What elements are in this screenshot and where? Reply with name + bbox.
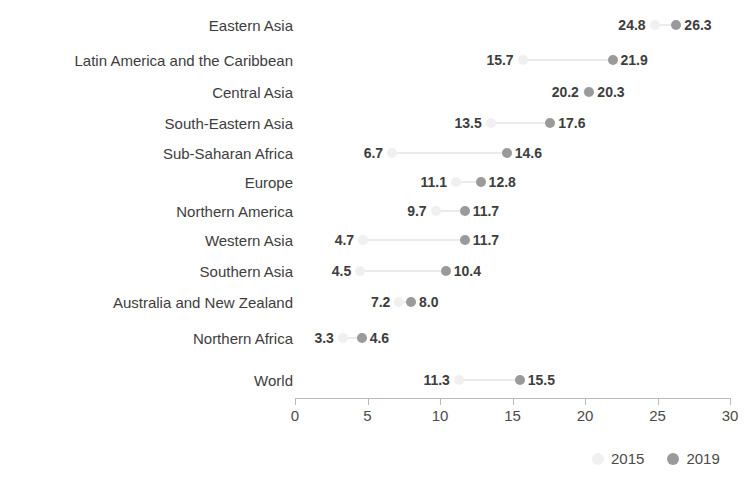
value-label-2019: 17.6 <box>558 116 585 130</box>
value-label-2019: 20.3 <box>597 85 624 99</box>
x-axis-tick-label: 15 <box>504 408 521 423</box>
value-label-2019: 15.5 <box>528 373 555 387</box>
data-point-2019 <box>460 206 470 216</box>
connector-line <box>459 380 520 381</box>
data-point-2019 <box>441 266 451 276</box>
category-label: Europe <box>245 175 293 190</box>
x-axis-tick-label: 5 <box>363 408 371 423</box>
data-point-2015 <box>358 235 368 245</box>
value-label-2015: 4.7 <box>335 233 354 247</box>
value-label-2019: 8.0 <box>419 295 438 309</box>
connector-line <box>363 240 465 241</box>
value-label-2015: 15.7 <box>486 53 513 67</box>
x-axis-tick-label: 30 <box>722 408 739 423</box>
data-point-2015 <box>486 118 496 128</box>
data-point-2019 <box>515 375 525 385</box>
value-label-2015: 7.2 <box>371 295 390 309</box>
value-label-2019: 21.9 <box>621 53 648 67</box>
category-label: Western Asia <box>205 233 293 248</box>
data-point-2019 <box>671 20 681 30</box>
value-label-2019: 12.8 <box>489 175 516 189</box>
x-axis-tick <box>585 398 586 405</box>
data-point-2015 <box>518 55 528 65</box>
category-label: Latin America and the Caribbean <box>75 53 293 68</box>
category-label: Southern Asia <box>200 264 293 279</box>
data-point-2019 <box>608 55 618 65</box>
data-point-2015 <box>451 177 461 187</box>
x-axis-tick <box>730 398 731 405</box>
category-label: Northern America <box>176 204 293 219</box>
data-point-2019 <box>406 297 416 307</box>
value-label-2015: 11.3 <box>423 373 449 387</box>
legend-label-2019: 2019 <box>686 450 719 467</box>
category-label: Australia and New Zealand <box>113 295 293 310</box>
value-label-2019: 11.7 <box>473 204 499 218</box>
category-label: World <box>254 373 293 388</box>
x-axis-tick <box>368 398 369 405</box>
data-point-2015 <box>650 20 660 30</box>
connector-line <box>360 271 446 272</box>
category-label: Northern Africa <box>193 331 293 346</box>
value-label-2019: 26.3 <box>684 18 711 32</box>
value-label-2015: 24.8 <box>618 18 645 32</box>
category-label: South-Eastern Asia <box>165 116 293 131</box>
category-label: Central Asia <box>212 85 293 100</box>
category-label: Eastern Asia <box>209 18 293 33</box>
legend-dot-2019-icon <box>667 453 679 465</box>
data-point-2015 <box>394 297 404 307</box>
value-label-2015: 11.1 <box>420 175 446 189</box>
value-label-2019: 14.6 <box>515 146 542 160</box>
connector-line <box>392 153 507 154</box>
value-label-2019: 4.6 <box>370 331 389 345</box>
data-point-2019 <box>545 118 555 128</box>
data-point-2015 <box>355 266 365 276</box>
data-point-2019 <box>357 333 367 343</box>
value-label-2019: 10.4 <box>454 264 481 278</box>
data-point-2015 <box>431 206 441 216</box>
value-label-2015: 20.2 <box>552 85 579 99</box>
data-point-2015 <box>338 333 348 343</box>
legend-label-2015: 2015 <box>611 450 644 467</box>
data-point-2019 <box>460 235 470 245</box>
value-label-2015: 4.5 <box>332 264 351 278</box>
data-point-2019 <box>476 177 486 187</box>
connector-line <box>491 123 550 124</box>
connector-line <box>523 60 613 61</box>
value-label-2019: 11.7 <box>473 233 499 247</box>
value-label-2015: 3.3 <box>314 331 333 345</box>
chart-legend: 2015 2019 <box>592 450 720 467</box>
x-axis-tick-label: 20 <box>577 408 594 423</box>
x-axis-tick-label: 0 <box>291 408 299 423</box>
legend-dot-2015-icon <box>592 453 604 465</box>
x-axis-tick-label: 25 <box>649 408 666 423</box>
x-axis-tick <box>513 398 514 405</box>
category-label: Sub-Saharan Africa <box>163 146 293 161</box>
data-point-2019 <box>502 148 512 158</box>
dumbbell-chart: 051015202530 Eastern Asia24.826.3Latin A… <box>0 0 748 480</box>
x-axis-tick <box>440 398 441 405</box>
value-label-2015: 9.7 <box>407 204 426 218</box>
value-label-2015: 6.7 <box>364 146 383 160</box>
data-point-2015 <box>454 375 464 385</box>
data-point-2019 <box>584 87 594 97</box>
x-axis-tick <box>658 398 659 405</box>
data-point-2015 <box>387 148 397 158</box>
x-axis-tick <box>295 398 296 405</box>
x-axis-tick-label: 10 <box>432 408 449 423</box>
value-label-2015: 13.5 <box>455 116 482 130</box>
